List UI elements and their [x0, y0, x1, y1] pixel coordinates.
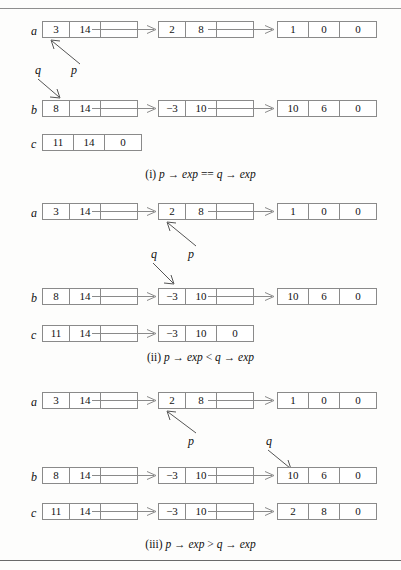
node-a2: 1 0 0 [277, 392, 377, 409]
node-coef: 8 [43, 101, 70, 116]
node-coef: −3 [159, 468, 186, 483]
link-arrow-b0-b1 [92, 471, 160, 480]
node-link: 0 [340, 204, 376, 219]
caption-number: (ii) [147, 351, 161, 363]
link-arrow-a1-a2 [208, 396, 278, 405]
caption-operator: > [207, 538, 214, 550]
node-exp: 0 [309, 204, 340, 219]
pointer-label-q-panel-i: q [35, 64, 41, 76]
list-label-a: a [31, 207, 37, 219]
caption-q: q [217, 538, 223, 550]
caption-arrow-1: → [174, 538, 186, 550]
node-link: 0 [340, 289, 376, 304]
node-exp: 6 [309, 289, 340, 304]
pointer-arrow-p-panel-iii [164, 409, 198, 435]
caption-panel-iii: (iii) p → exp > q → exp [0, 538, 401, 550]
list-label-c: c [31, 329, 36, 341]
node-link: 0 [340, 504, 376, 519]
node-coef: 3 [43, 393, 70, 408]
node-coef: −3 [159, 101, 186, 116]
figure-page: a 3 14 2 8 1 0 0 p q b 8 14 −3 10 [0, 0, 401, 570]
node-exp: 6 [309, 101, 340, 116]
link-arrow-a1-a2 [208, 207, 278, 216]
node-coef: 11 [43, 504, 70, 519]
node-exp: 14 [74, 135, 105, 150]
caption-exp-1: exp [188, 538, 204, 550]
node-a2: 1 0 0 [277, 203, 377, 220]
caption-arrow-2: → [224, 351, 236, 363]
pointer-label-q-panel-ii: q [151, 248, 157, 260]
node-exp: 0 [309, 393, 340, 408]
node-link: 0 [105, 135, 141, 150]
pointer-label-p-panel-i: p [71, 64, 77, 76]
caption-exp-2: exp [240, 538, 256, 550]
node-coef: −3 [159, 504, 186, 519]
link-arrow-a0-a1 [92, 207, 160, 216]
node-coef: −3 [159, 326, 186, 341]
pointer-arrow-p-panel-ii [164, 220, 198, 248]
node-coef: 3 [43, 22, 70, 37]
node-coef: 8 [43, 289, 70, 304]
link-arrow-a0-a1 [92, 396, 160, 405]
caption-arrow-2: → [225, 538, 237, 550]
caption-panel-ii: (ii) p → exp < q → exp [0, 351, 401, 363]
top-divider-rule [0, 8, 401, 9]
caption-p: p [165, 538, 171, 550]
list-label-a: a [31, 25, 37, 37]
caption-arrow-1: → [168, 168, 180, 180]
node-exp: 0 [309, 22, 340, 37]
node-c0: 11 14 0 [42, 134, 142, 151]
node-coef: 1 [278, 393, 309, 408]
node-coef: 11 [43, 326, 70, 341]
node-link: 0 [217, 326, 253, 341]
caption-operator: < [206, 351, 213, 363]
pointer-label-q-panel-iii: q [266, 435, 272, 447]
list-label-b: b [31, 292, 37, 304]
node-link: 0 [340, 22, 376, 37]
node-coef: 11 [43, 135, 74, 150]
list-label-c: c [31, 507, 36, 519]
caption-exp-1: exp [187, 351, 203, 363]
caption-q: q [217, 168, 223, 180]
node-link: 0 [340, 393, 376, 408]
list-label-c: c [31, 138, 36, 150]
caption-panel-i: (i) p → exp == q → exp [0, 168, 401, 180]
link-arrow-c0-c1 [92, 507, 160, 516]
node-exp: 6 [309, 468, 340, 483]
node-exp: 10 [186, 326, 217, 341]
node-coef: 2 [159, 393, 186, 408]
node-b2: 10 6 0 [277, 100, 377, 117]
link-arrow-a1-a2 [208, 25, 278, 34]
node-a2: 1 0 0 [277, 21, 377, 38]
node-b2: 10 6 0 [277, 288, 377, 305]
pointer-label-p-panel-iii: p [188, 435, 194, 447]
node-link: 0 [340, 101, 376, 116]
link-arrow-b0-b1 [92, 292, 160, 301]
caption-exp-1: exp [182, 168, 198, 180]
caption-exp-2: exp [240, 168, 256, 180]
pointer-arrow-q-panel-ii [152, 262, 178, 286]
bottom-divider-rule [0, 560, 401, 561]
pointer-label-p-panel-ii: p [188, 248, 194, 260]
pointer-arrow-p-panel-i [48, 38, 82, 66]
node-coef: 2 [278, 504, 309, 519]
list-label-b: b [31, 471, 37, 483]
caption-operator: == [201, 168, 214, 180]
node-coef: 2 [159, 204, 186, 219]
link-arrow-b1-b2 [208, 104, 278, 113]
caption-arrow-2: → [225, 168, 237, 180]
link-arrow-b1-b2 [208, 292, 278, 301]
caption-p: p [159, 168, 165, 180]
node-coef: −3 [159, 289, 186, 304]
node-exp: 8 [309, 504, 340, 519]
node-b2: 10 6 0 [277, 467, 377, 484]
link-arrow-b0-b1 [92, 104, 160, 113]
link-arrow-a0-a1 [92, 25, 160, 34]
node-coef: 8 [43, 468, 70, 483]
caption-arrow-1: → [173, 351, 185, 363]
node-coef: 10 [278, 289, 309, 304]
caption-q: q [215, 351, 221, 363]
link-arrow-c0-c1 [92, 329, 160, 338]
node-coef: 1 [278, 22, 309, 37]
caption-p: p [164, 351, 170, 363]
